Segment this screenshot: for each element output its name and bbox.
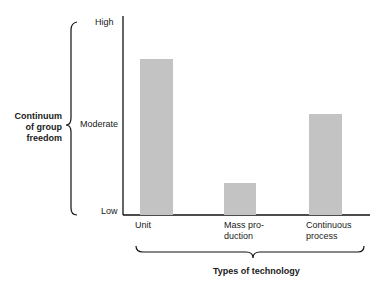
x-label-unit: Unit — [135, 220, 151, 231]
y-axis-label: Continuum of group freedom — [4, 111, 62, 144]
x-label-line: duction — [224, 231, 264, 242]
x-label-mass-production: Mass pro- duction — [224, 220, 264, 242]
x-label-line: Continuous — [306, 220, 352, 231]
bar-unit — [140, 59, 173, 215]
x-axis-label: Types of technology — [213, 266, 300, 276]
y-label-line: Continuum — [4, 111, 62, 122]
x-label-line: process — [306, 231, 352, 242]
x-label-line: Mass pro- — [224, 220, 264, 231]
bar-continuous-process — [309, 114, 342, 215]
left-brace-icon — [66, 22, 77, 215]
y-tick-low: Low — [101, 206, 118, 216]
x-label-continuous-process: Continuous process — [306, 220, 352, 242]
y-label-line: freedom — [4, 133, 62, 144]
y-tick-moderate: Moderate — [80, 119, 118, 129]
y-label-line: of group — [4, 122, 62, 133]
x-label-line: Unit — [135, 220, 151, 231]
bottom-brace-icon — [136, 246, 364, 258]
y-tick-high: High — [95, 17, 114, 27]
bar-mass-production — [224, 183, 256, 215]
